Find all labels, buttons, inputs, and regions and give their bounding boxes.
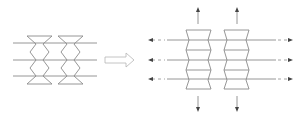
right-column-2 bbox=[224, 30, 249, 89]
arrow-up-icon-1 bbox=[196, 7, 200, 12]
transition-arrow-icon bbox=[105, 53, 134, 67]
down-expansion-arrows bbox=[196, 96, 239, 112]
right-tension-arrows bbox=[278, 38, 293, 81]
arrow-up-icon-2 bbox=[235, 7, 239, 12]
arrow-left-icon-1 bbox=[148, 38, 153, 42]
auxetic-diagram bbox=[0, 0, 300, 120]
arrow-right-icon-2 bbox=[288, 58, 293, 62]
arrow-right-icon-3 bbox=[288, 77, 293, 81]
right-lattice bbox=[148, 7, 293, 112]
right-column-1 bbox=[186, 30, 211, 89]
arrow-left-icon-2 bbox=[148, 58, 153, 62]
up-expansion-arrows bbox=[196, 7, 239, 24]
arrow-left-icon-3 bbox=[148, 77, 153, 81]
diagram-svg bbox=[0, 0, 300, 120]
arrow-right-icon-1 bbox=[288, 38, 293, 42]
arrow-down-icon-2 bbox=[235, 107, 239, 112]
left-tension-arrows bbox=[148, 38, 165, 81]
arrow-down-icon-1 bbox=[196, 107, 200, 112]
right-horizontal-lines bbox=[167, 40, 276, 79]
left-lattice bbox=[13, 36, 97, 84]
